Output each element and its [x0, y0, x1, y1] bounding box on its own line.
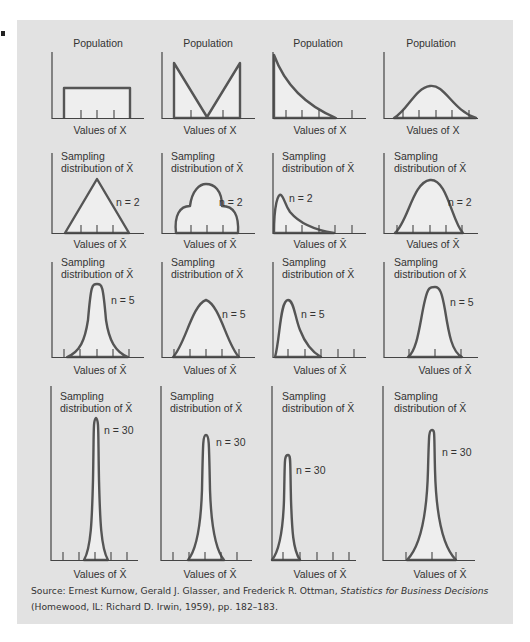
chart-n5-uniform: Sampling distribution of X̄ n = 5 Values…: [52, 256, 144, 376]
sample-size-label: n = 30: [442, 446, 472, 458]
chart-title-line2: distribution of X̄: [60, 402, 132, 414]
source-prefix: Source: Ernest Kurnow, Gerald J. Glasser…: [31, 585, 341, 596]
chart-title-line1: Sampling: [394, 150, 438, 162]
x-axis-label: Values of X̄: [74, 238, 127, 250]
chart-n2-v-shape: Sampling distribution of X̄ n = 2 Values…: [162, 150, 255, 250]
chart-n5-normal: Sampling distribution of X̄ n = 5 Values…: [384, 256, 478, 376]
chart-title-line2: distribution of X̄: [394, 162, 466, 174]
chart-title-line1: Sampling: [61, 150, 105, 162]
x-axis-label: Values of X: [74, 124, 127, 136]
sample-size-label: n = 2: [116, 196, 140, 208]
chart-title-line2: distribution of X̄: [61, 268, 133, 280]
x-axis-label: Values of X̄: [184, 238, 237, 250]
chart-n2-exponential: Sampling distribution of X̄ n = 2 Values…: [273, 150, 366, 250]
x-axis-label: Values of X̄: [294, 238, 347, 250]
chart-title-line2: distribution of X̄: [394, 402, 466, 414]
x-axis-label: Values of X̄: [407, 238, 460, 250]
chart-title-line1: Sampling: [282, 390, 326, 402]
chart-title-line2: distribution of X̄: [171, 162, 243, 174]
sample-size-label: n = 5: [222, 308, 246, 320]
sample-size-label: n = 30: [104, 424, 134, 436]
central-limit-theorem-figure: .axis{stroke:#444;stroke-width:1.2;fill:…: [0, 0, 530, 642]
chart-n5-v-shape: Sampling distribution of X̄ n = 5 Values…: [162, 256, 255, 376]
source-book-title: Statistics for Business Decisions: [341, 585, 489, 596]
chart-title-line1: Sampling: [394, 256, 438, 268]
chart-title-line1: Sampling: [61, 256, 105, 268]
x-axis-label: Values of X̄: [419, 364, 472, 376]
x-axis-label: Values of X̄: [294, 568, 347, 580]
x-axis-label: Values of X̄: [74, 568, 127, 580]
x-axis-label: Values of X̄: [414, 568, 467, 580]
chart-n2-normal: Sampling distribution of X̄ n = 2 Values…: [384, 150, 478, 250]
chart-title: Population: [183, 37, 233, 49]
x-axis-label: Values of X: [294, 124, 347, 136]
chart-population-v-shape: Population Values of X: [162, 37, 255, 136]
chart-title-line1: Sampling: [282, 256, 326, 268]
chart-title: Population: [406, 37, 456, 49]
x-axis-label: Values of X: [407, 124, 460, 136]
chart-population-normal: Population Values of X: [384, 37, 478, 136]
x-axis-label: Values of X: [184, 124, 237, 136]
chart-title: Population: [73, 37, 123, 49]
chart-title: Population: [293, 37, 343, 49]
chart-title-line1: Sampling: [282, 150, 326, 162]
chart-title-line2: distribution of X̄: [282, 268, 354, 280]
x-axis-label: Values of X̄: [184, 364, 237, 376]
chart-population-exponential: Population Values of X: [273, 37, 366, 136]
chart-title-line1: Sampling: [60, 390, 104, 402]
source-citation: Source: Ernest Kurnow, Gerald J. Glasser…: [31, 583, 501, 615]
source-suffix: (Homewood, IL: Richard D. Irwin, 1959), …: [31, 601, 278, 612]
chart-title-line2: distribution of X̄: [61, 162, 133, 174]
chart-title-line1: Sampling: [171, 150, 215, 162]
chart-n2-uniform: Sampling distribution of X̄ n = 2 Values…: [52, 150, 144, 250]
chart-title-line2: distribution of X̄: [171, 268, 243, 280]
sample-size-label: n = 2: [289, 192, 313, 204]
chart-title-line2: distribution of X̄: [394, 268, 466, 280]
sample-size-label: n = 5: [450, 296, 474, 308]
chart-n30-v-shape: Sampling distribution of X̄ n = 30 Value…: [161, 386, 252, 580]
x-axis-label: Values of X̄: [184, 568, 237, 580]
x-axis-label: Values of X̄: [294, 364, 347, 376]
chart-title-line1: Sampling: [171, 256, 215, 268]
chart-title-line2: distribution of X̄: [282, 162, 354, 174]
chart-title-line1: Sampling: [394, 390, 438, 402]
sample-size-label: n = 5: [111, 294, 135, 306]
chart-n30-normal: Sampling distribution of X̄ n = 30 Value…: [383, 386, 475, 580]
chart-population-uniform: Population Values of X: [52, 37, 144, 136]
sample-size-label: n = 2: [448, 196, 472, 208]
chart-n30-exponential: Sampling distribution of X̄ n = 30 Value…: [272, 386, 356, 580]
sample-size-label: n = 2: [219, 196, 243, 208]
chart-title-line2: distribution of X̄: [282, 402, 354, 414]
chart-n30-uniform: Sampling distribution of X̄ n = 30 Value…: [51, 386, 138, 580]
sample-size-label: n = 5: [301, 308, 325, 320]
x-axis-label: Values of X̄: [74, 364, 127, 376]
chart-title-line1: Sampling: [170, 390, 214, 402]
sample-size-label: n = 30: [216, 436, 246, 448]
sample-size-label: n = 30: [296, 464, 326, 476]
chart-n5-exponential: Sampling distribution of X̄ n = 5 Values…: [273, 256, 366, 376]
chart-title-line2: distribution of X̄: [170, 402, 242, 414]
